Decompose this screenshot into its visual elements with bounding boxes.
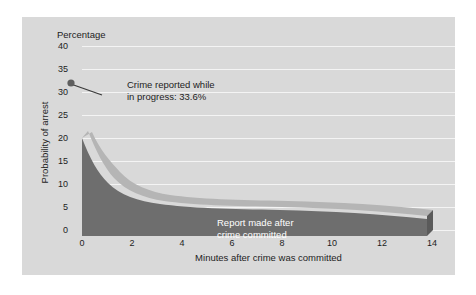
annotation-callout: Crime reported while in progress: 33.6%	[127, 79, 215, 103]
xtick-label-12: 12	[370, 238, 394, 248]
xtick-label-6: 6	[220, 238, 244, 248]
xtick-label-14: 14	[420, 238, 444, 248]
xtick-label-0: 0	[70, 238, 94, 248]
annotation-marker-dot	[67, 79, 74, 86]
xtick-label-2: 2	[120, 238, 144, 248]
series-inline-label-line1: Report made after	[217, 217, 294, 229]
annotation-callout-line2: in progress: 33.6%	[127, 91, 215, 103]
chart-figure: Percentage 40 35 30 25 20 15 10 5 0 Prob…	[0, 0, 476, 295]
xtick-label-8: 8	[270, 238, 294, 248]
annotation-callout-line1: Crime reported while	[127, 79, 215, 91]
chart-panel: Percentage 40 35 30 25 20 15 10 5 0 Prob…	[22, 17, 455, 275]
x-axis-label: Minutes after crime was committed	[82, 252, 455, 263]
xtick-label-10: 10	[320, 238, 344, 248]
xtick-label-4: 4	[170, 238, 194, 248]
